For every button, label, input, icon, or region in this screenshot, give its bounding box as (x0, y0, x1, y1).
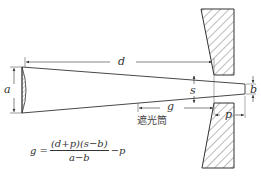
formula-denominator: a−b (69, 151, 90, 163)
formula: g = (d+p)(s−b) a−b −p (30, 138, 125, 163)
label-s: s (190, 85, 196, 96)
light-cone (22, 67, 245, 113)
formula-lhs: g = (30, 145, 48, 156)
dimension-a (10, 67, 22, 113)
formula-numerator: (d+p)(s−b) (50, 138, 109, 151)
dimension-g (138, 103, 213, 112)
lens (22, 67, 26, 113)
label-g: g (167, 101, 174, 112)
formula-suffix: −p (111, 145, 126, 156)
label-hood: 遮光筒 (137, 116, 167, 126)
upper-aperture-block (201, 9, 234, 75)
label-d: d (118, 56, 125, 67)
label-b: b (250, 84, 257, 95)
label-p: p (225, 109, 232, 120)
label-a: a (4, 84, 11, 95)
formula-fraction: (d+p)(s−b) a−b (50, 138, 109, 163)
